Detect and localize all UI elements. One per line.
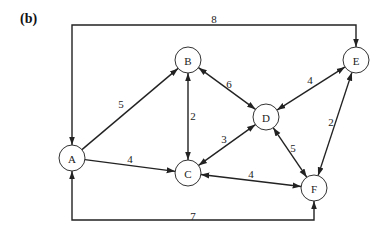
- nodes-layer: ABCDEF: [59, 47, 369, 201]
- node-e: E: [343, 47, 369, 73]
- node-f: F: [301, 175, 327, 201]
- node-a: A: [59, 145, 85, 171]
- node-label: D: [262, 112, 270, 124]
- edge-weight-c-d: 3: [221, 133, 227, 145]
- edge-weight-a-e: 8: [211, 13, 217, 25]
- node-label: E: [353, 55, 360, 67]
- edge-weight-d-f: 5: [290, 142, 296, 154]
- edge-weight-b-d: 6: [226, 78, 232, 90]
- node-b: B: [175, 47, 201, 73]
- node-label: F: [311, 183, 317, 195]
- edge-weight-b-c: 2: [190, 110, 196, 122]
- edge-weight-c-f: 4: [248, 168, 254, 180]
- edge-weight-d-e: 4: [307, 74, 313, 86]
- node-label: B: [184, 55, 191, 67]
- node-d: D: [253, 104, 279, 130]
- node-label: A: [68, 153, 76, 165]
- edge-e-f: [318, 72, 352, 175]
- edge-a-b: [82, 68, 178, 149]
- edge-c-d: [199, 125, 256, 166]
- graph-diagram: 54263445287 ABCDEF: [0, 0, 388, 236]
- node-c: C: [175, 160, 201, 186]
- edge-weight-a-b: 5: [118, 98, 124, 110]
- edge-weight-e-f: 2: [328, 116, 334, 128]
- edge-weight-a-c: 4: [127, 153, 133, 165]
- edge-weight-a-f: 7: [190, 210, 196, 222]
- node-label: C: [184, 168, 191, 180]
- edge-a-e: [72, 25, 356, 145]
